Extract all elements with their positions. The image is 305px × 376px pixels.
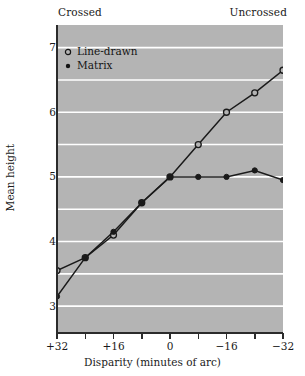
data-point-matrix [280, 178, 283, 183]
legend-label: Line-drawn [77, 45, 138, 57]
y-tick-label: 5 [16, 171, 56, 182]
data-point-line-drawn [280, 67, 283, 73]
filled-circle-marker-icon [62, 56, 74, 75]
y-axis-title: Mean height [4, 144, 16, 211]
data-point-matrix [111, 229, 116, 234]
data-point-line-drawn [195, 142, 201, 148]
data-point-matrix [196, 174, 201, 179]
x-tick-label: 0 [167, 341, 174, 352]
y-axis-line [56, 25, 58, 332]
x-tick-mark [113, 333, 115, 339]
x-tick-mark [141, 333, 143, 339]
data-point-matrix [83, 255, 88, 260]
x-tick-mark [56, 333, 58, 339]
data-point-matrix [224, 174, 229, 179]
series-line-line-drawn [57, 70, 283, 270]
x-tick-mark [254, 333, 256, 339]
legend-label: Matrix [77, 59, 113, 71]
y-tick-label: 4 [16, 236, 56, 247]
data-point-line-drawn [224, 109, 230, 115]
x-axis-title: Disparity (minutes of arc) [0, 356, 305, 368]
legend-item: Matrix [62, 58, 138, 72]
data-point-matrix [252, 168, 257, 173]
data-point-matrix [139, 200, 144, 205]
y-tick-label: 6 [16, 107, 56, 118]
y-tick-label: 7 [16, 42, 56, 53]
x-tick-mark [226, 333, 228, 339]
x-tick-mark [198, 333, 200, 339]
x-tick-label: −16 [215, 341, 237, 352]
y-tick-label: 3 [16, 301, 56, 312]
series-line-matrix [57, 170, 283, 296]
x-tick-label: +16 [102, 341, 124, 352]
data-point-line-drawn [252, 90, 258, 96]
data-series [57, 67, 283, 299]
x-tick-mark [282, 333, 284, 339]
x-tick-label: +32 [46, 341, 68, 352]
chart-figure: Crossed Uncrossed 34567 +32+160−16−32 Me… [0, 0, 305, 376]
x-tick-label: −32 [272, 341, 294, 352]
x-tick-mark [169, 333, 171, 339]
uncrossed-label: Uncrossed [230, 6, 287, 18]
chart-legend: Line-drawnMatrix [62, 44, 138, 72]
x-tick-mark [85, 333, 87, 339]
data-point-matrix [167, 174, 172, 179]
crossed-label: Crossed [58, 6, 102, 18]
